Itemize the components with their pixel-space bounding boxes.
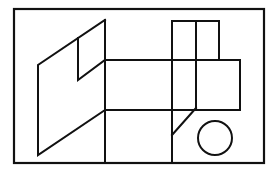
line-drawing-canvas [0,0,277,178]
canvas-background [0,0,277,178]
figure-root [0,0,277,178]
